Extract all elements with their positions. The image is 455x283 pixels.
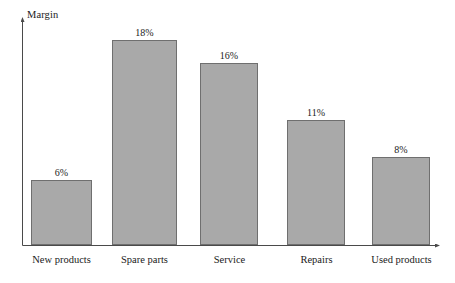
bar-value-new-products: 6% [31,167,92,178]
category-label-used-products: Used products [351,254,452,266]
bar-repairs [287,120,345,245]
bar-value-used-products: 8% [372,144,430,155]
bar-used-products [372,157,430,245]
bar-value-repairs: 11% [287,107,345,118]
bar-chart: Margin 6% New products 18% Spare parts 1… [0,0,455,283]
bar-value-service: 16% [200,50,258,61]
y-axis-title: Margin [27,9,58,21]
bar-value-spare-parts: 18% [112,27,177,38]
bar-service [200,63,258,245]
bar-spare-parts [112,40,177,245]
category-label-service: Service [179,254,280,266]
bar-new-products [31,180,92,245]
